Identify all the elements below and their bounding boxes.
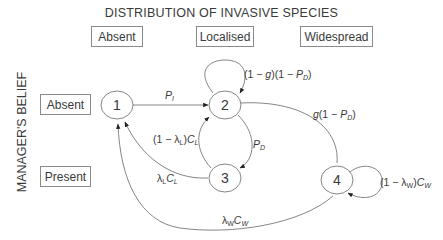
edge-2-self xyxy=(205,60,245,93)
node-3-label: 3 xyxy=(221,170,229,186)
edge-label-2-4: g(1 − PD) xyxy=(313,108,356,121)
edge-label-2-3: PD xyxy=(253,138,265,151)
edge-label-4-self: (1 − λW)CW xyxy=(380,176,432,189)
node-2-label: 2 xyxy=(221,97,229,113)
node-4-label: 4 xyxy=(333,172,341,188)
edge-label-2-self: (1 − g)(1 − PD) xyxy=(244,68,312,81)
edge-3-2 xyxy=(199,117,211,168)
edge-3-1 xyxy=(125,122,208,178)
state-transition-graph: 1 2 3 4 PI (1 − g)(1 − PD) PD (1 − λL)CL… xyxy=(0,0,443,240)
edge-label-3-1: λLCL xyxy=(157,172,178,185)
edge-2-3 xyxy=(238,115,252,168)
edge-label-1-2: PI xyxy=(165,89,174,102)
edge-label-3-2: (1 − λL)CL xyxy=(153,133,199,146)
node-1-label: 1 xyxy=(113,97,121,113)
edge-label-4-1: λWCW xyxy=(222,214,249,227)
